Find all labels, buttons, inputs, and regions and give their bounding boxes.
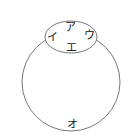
label-u: ウ	[84, 29, 95, 42]
label-a: ア	[65, 21, 76, 34]
label-e: エ	[66, 41, 77, 54]
label-o: オ	[67, 118, 78, 131]
label-i: イ	[47, 31, 58, 44]
venn-diagram: ア イ ウ エ オ	[0, 0, 129, 139]
